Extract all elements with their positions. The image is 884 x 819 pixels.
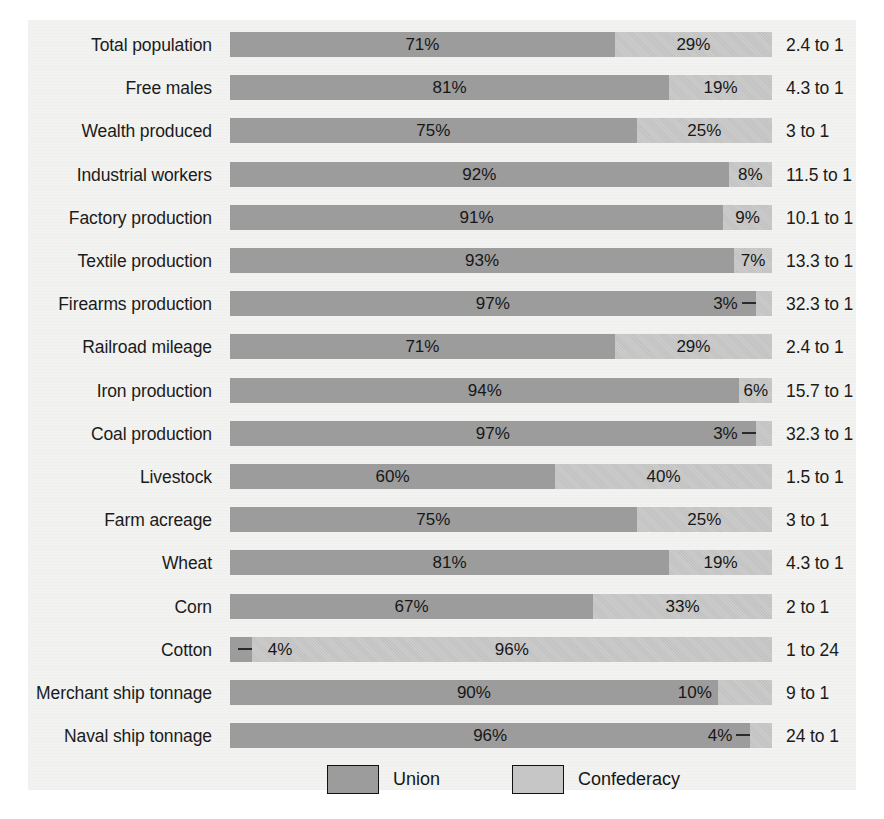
union-percent-label: 71% xyxy=(230,334,615,359)
row-category-label: Coal production xyxy=(0,423,212,445)
chart-row: Wheat81%19%4.3 to 1 xyxy=(0,550,884,576)
chart-row: Textile production93%7%13.3 to 1 xyxy=(0,248,884,274)
ratio-label: 1.5 to 1 xyxy=(786,466,844,488)
row-category-label: Factory production xyxy=(0,207,212,229)
legend-swatch-icon xyxy=(512,765,564,794)
union-vs-confederacy-resources-chart: Total population71%29%2.4 to 1Free males… xyxy=(0,0,884,819)
ratio-label: 4.3 to 1 xyxy=(786,552,844,574)
confederacy-percent-label: 29% xyxy=(615,32,772,57)
stacked-bar: 75%25% xyxy=(230,118,772,143)
row-category-label: Farm acreage xyxy=(0,509,212,531)
leader-dash-icon xyxy=(742,302,756,304)
leader-dash-icon xyxy=(238,648,252,650)
chart-row: Factory production91%9%10.1 to 1 xyxy=(0,205,884,231)
stacked-bar: 92%8% xyxy=(230,162,772,187)
union-percent-label: 92% xyxy=(230,162,729,187)
legend-label: Confederacy xyxy=(578,766,680,793)
confederacy-percent-label: 25% xyxy=(637,507,773,532)
stacked-bar: 97%3% xyxy=(230,421,772,446)
row-category-label: Cotton xyxy=(0,639,212,661)
ratio-label: 9 to 1 xyxy=(786,682,829,704)
row-category-label: Total population xyxy=(0,34,212,56)
legend-swatch-icon xyxy=(327,765,379,794)
ratio-label: 24 to 1 xyxy=(786,725,839,747)
stacked-bar: 81%19% xyxy=(230,75,772,100)
chart-row: Iron production94%6%15.7 to 1 xyxy=(0,378,884,404)
confederacy-percent-label: 10% xyxy=(230,680,712,705)
ratio-label: 32.3 to 1 xyxy=(786,293,853,315)
leader-dash-icon xyxy=(736,734,750,736)
row-category-label: Railroad mileage xyxy=(0,336,212,358)
chart-row: Coal production97%3%32.3 to 1 xyxy=(0,421,884,447)
ratio-label: 11.5 to 1 xyxy=(786,164,852,186)
stacked-bar: 81%19% xyxy=(230,550,772,575)
ratio-label: 4.3 to 1 xyxy=(786,77,844,99)
ratio-label: 2.4 to 1 xyxy=(786,336,844,358)
ratio-label: 15.7 to 1 xyxy=(786,380,853,402)
row-category-label: Livestock xyxy=(0,466,212,488)
row-category-label: Industrial workers xyxy=(0,164,212,186)
union-percent-label: 94% xyxy=(230,378,739,403)
row-category-label: Merchant ship tonnage xyxy=(0,682,212,704)
row-category-label: Firearms production xyxy=(0,293,212,315)
ratio-label: 32.3 to 1 xyxy=(786,423,853,445)
stacked-bar: 93%7% xyxy=(230,248,772,273)
ratio-label: 2.4 to 1 xyxy=(786,34,844,56)
stacked-bar: 71%29% xyxy=(230,32,772,57)
chart-row: Wealth produced75%25%3 to 1 xyxy=(0,118,884,144)
ratio-label: 13.3 to 1 xyxy=(786,250,853,272)
confederacy-percent-label: 19% xyxy=(669,75,772,100)
chart-row: Livestock60%40%1.5 to 1 xyxy=(0,464,884,490)
stacked-bar: 94%6% xyxy=(230,378,772,403)
union-percent-label: 81% xyxy=(230,75,669,100)
row-category-label: Wheat xyxy=(0,552,212,574)
stacked-bar: 96%4% xyxy=(230,723,772,748)
union-percent-label: 93% xyxy=(230,248,734,273)
row-category-label: Iron production xyxy=(0,380,212,402)
ratio-label: 1 to 24 xyxy=(786,639,839,661)
chart-row: Naval ship tonnage96%4%24 to 1 xyxy=(0,723,884,749)
union-percent-label: 60% xyxy=(230,464,555,489)
chart-row: Firearms production97%3%32.3 to 1 xyxy=(0,291,884,317)
stacked-bar: 97%3% xyxy=(230,291,772,316)
ratio-label: 10.1 to 1 xyxy=(786,207,853,229)
row-category-label: Wealth produced xyxy=(0,120,212,142)
chart-row: Total population71%29%2.4 to 1 xyxy=(0,32,884,58)
union-percent-label: 81% xyxy=(230,550,669,575)
confederacy-percent-label: 25% xyxy=(637,118,773,143)
confederacy-percent-label: 8% xyxy=(729,162,772,187)
chart-legend: UnionConfederacy xyxy=(0,762,884,806)
stacked-bar: 90%10% xyxy=(230,680,772,705)
legend-label: Union xyxy=(393,766,440,793)
stacked-bar: 71%29% xyxy=(230,334,772,359)
row-category-label: Naval ship tonnage xyxy=(0,725,212,747)
row-category-label: Free males xyxy=(0,77,212,99)
confederacy-percent-label: 33% xyxy=(593,594,772,619)
stacked-bar: 75%25% xyxy=(230,507,772,532)
union-percent-label: 71% xyxy=(230,32,615,57)
chart-row: Corn67%33%2 to 1 xyxy=(0,594,884,620)
union-percent-label: 91% xyxy=(230,205,723,230)
confederacy-percent-label: 19% xyxy=(669,550,772,575)
stacked-bar: 67%33% xyxy=(230,594,772,619)
ratio-label: 3 to 1 xyxy=(786,120,829,142)
union-percent-label: 67% xyxy=(230,594,593,619)
confederacy-percent-label: 3% xyxy=(230,421,738,446)
stacked-bar: 91%9% xyxy=(230,205,772,230)
confederacy-percent-label: 4% xyxy=(230,723,732,748)
union-percent-label: 75% xyxy=(230,507,637,532)
union-percent-label: 75% xyxy=(230,118,637,143)
chart-row: Merchant ship tonnage90%10%9 to 1 xyxy=(0,680,884,706)
confederacy-percent-label: 40% xyxy=(555,464,772,489)
confederacy-percent-label: 3% xyxy=(230,291,738,316)
chart-row: Railroad mileage71%29%2.4 to 1 xyxy=(0,334,884,360)
row-category-label: Corn xyxy=(0,596,212,618)
stacked-bar: 60%40% xyxy=(230,464,772,489)
confederacy-percent-label: 29% xyxy=(615,334,772,359)
confederacy-percent-label: 6% xyxy=(739,378,772,403)
chart-row: Industrial workers92%8%11.5 to 1 xyxy=(0,162,884,188)
chart-row: Farm acreage75%25%3 to 1 xyxy=(0,507,884,533)
page-canvas: Total population71%29%2.4 to 1Free males… xyxy=(0,0,884,819)
ratio-label: 3 to 1 xyxy=(786,509,829,531)
confederacy-percent-label: 96% xyxy=(252,637,772,662)
